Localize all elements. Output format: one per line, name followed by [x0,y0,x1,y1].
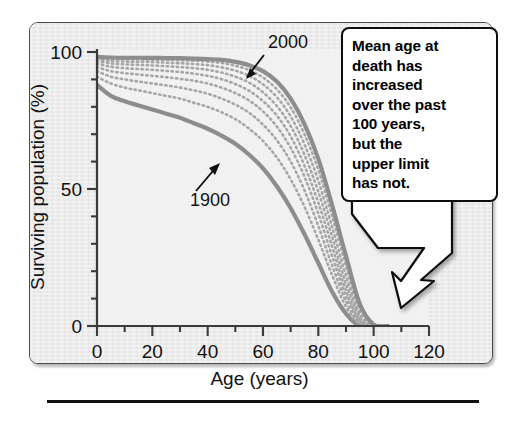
y-tick-label: 0 [71,316,82,337]
callout-line-4: 100 years, [352,114,489,134]
x-tick-label: 20 [142,341,163,362]
x-tick-group [97,326,429,336]
y-tick-label: 100 [50,42,82,63]
x-tick-label: 0 [92,341,103,362]
x-tick-label: 60 [252,341,273,362]
series-label-1900: 1900 [190,190,230,210]
x-tick-label: 40 [197,341,218,362]
figure-root: 020406080100120 050100 2000 1900 Mean ag… [0,0,519,426]
callout-line-7: has not. [352,173,489,193]
series-label-2000: 2000 [268,32,308,52]
x-tick-label: 100 [358,341,390,362]
callout-line-6: upper limit [352,154,489,174]
y-tick-label: 50 [61,179,82,200]
x-axis-label: Age (years) [0,368,519,390]
bottom-rule [47,400,479,403]
callout-line-1: death has [352,56,489,76]
x-tick-label: 80 [308,341,329,362]
y-axis-label: Surviving population (%) [27,57,49,317]
callout-line-0: Mean age at [352,36,489,56]
y-tick-group [87,52,97,326]
x-tick-label-group: 020406080100120 [92,341,445,362]
annotation-callout: Mean age at death has increased over the… [341,27,498,202]
callout-line-3: over the past [352,95,489,115]
callout-line-2: increased [352,75,489,95]
x-tick-label: 120 [413,341,445,362]
callout-line-5: but the [352,134,489,154]
y-tick-label-group: 050100 [50,42,82,337]
